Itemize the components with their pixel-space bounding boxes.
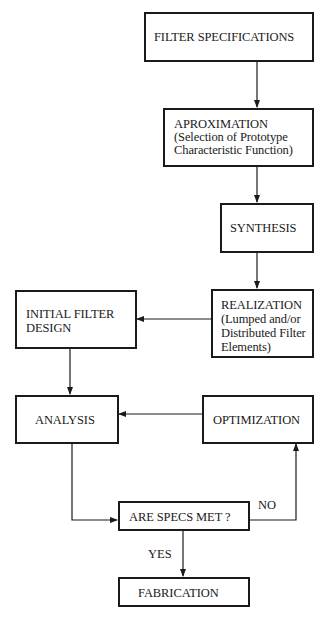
node-realization: REALIZATION (Lumped and/or Distributed F… [211,289,314,358]
node-optimization: OPTIMIZATION [202,395,314,444]
node-analysis: ANALYSIS [15,395,119,444]
edge-label-no: NO [258,499,276,512]
node-text: Elements) [221,341,271,355]
node-text: SYNTHESIS [230,222,296,236]
node-approximation: APROXIMATION (Selection of Prototype Cha… [163,108,314,167]
node-initial-filter-design: INITIAL FILTER DESIGN [15,290,137,349]
node-fabrication: FABRICATION [118,577,250,607]
node-text: (Lumped and/or [221,313,300,327]
node-synthesis: SYNTHESIS [220,203,314,253]
node-text: FILTER SPECIFICATIONS [154,31,294,45]
node-are-specs-met: ARE SPECS MET ? [118,501,250,531]
node-text: ANALYSIS [35,414,95,428]
node-text: Characteristic Function) [174,144,293,158]
node-text: Distributed Filter [221,327,306,341]
node-filter-specifications: FILTER SPECIFICATIONS [144,12,314,62]
edge-label-yes: YES [148,548,172,561]
node-text: REALIZATION [221,299,302,313]
node-text: ARE SPECS MET ? [129,511,230,525]
node-text: FABRICATION [138,587,219,601]
node-text: INITIAL FILTER [26,308,114,322]
node-text: DESIGN [26,322,71,336]
node-text: OPTIMIZATION [213,414,300,428]
